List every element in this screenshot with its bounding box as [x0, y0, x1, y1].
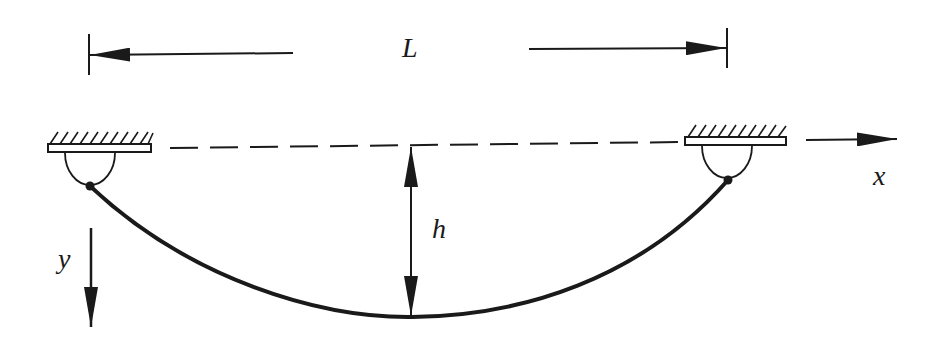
span-left-arrow	[90, 53, 293, 55]
y-axis-label: y	[55, 243, 71, 274]
x-axis: x	[806, 139, 897, 191]
catenary-diagram: L h	[0, 0, 943, 346]
right-ceiling-plate	[685, 137, 786, 145]
left-hatching	[50, 132, 153, 144]
span-label: L	[401, 32, 418, 63]
x-axis-label: x	[872, 160, 886, 191]
right-support	[685, 125, 786, 185]
right-hatching	[688, 125, 786, 137]
x-axis-arrow	[806, 139, 897, 140]
cable-curve	[90, 180, 728, 317]
left-support	[48, 132, 153, 191]
left-pin-bracket	[65, 153, 115, 185]
y-axis: y	[55, 228, 91, 327]
left-ceiling-plate	[48, 144, 151, 152]
right-pin-bracket	[702, 146, 752, 178]
sag-dimension: h	[411, 147, 446, 316]
reference-dashed-line	[170, 142, 684, 148]
sag-label: h	[432, 213, 446, 244]
span-right-arrow	[529, 48, 726, 49]
span-dimension: L	[89, 28, 727, 75]
